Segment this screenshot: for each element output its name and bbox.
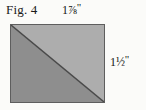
dimension-right-unit: ": [125, 52, 130, 66]
figure-illustration: Fig. 4 1⅞" 1½": [0, 0, 146, 110]
dimension-label-top: 1⅞": [62, 3, 81, 17]
dimension-label-right: 1½": [110, 55, 129, 69]
fabric-square-shape: [10, 24, 105, 103]
figure-caption: Fig. 4: [6, 2, 38, 18]
dimension-top-fraction: ⅞: [68, 3, 77, 17]
square-diagonal-diagram: [11, 25, 104, 102]
dimension-right-fraction: ½: [116, 55, 125, 69]
dimension-top-unit: ": [77, 0, 82, 14]
